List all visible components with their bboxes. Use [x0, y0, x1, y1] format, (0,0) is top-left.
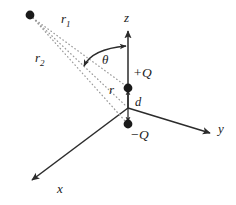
r-label: r [109, 83, 114, 96]
axis-group [32, 31, 210, 180]
diagram-canvas [0, 0, 236, 205]
r1-ray [33, 18, 126, 86]
y-axis-label: y [218, 122, 224, 135]
x-axis-label: x [57, 182, 63, 195]
r2-subscript: 2 [40, 58, 45, 68]
negative-charge-label: −Q [130, 128, 149, 142]
distance-ray-group [33, 18, 126, 122]
x-axis-line [32, 108, 128, 180]
dipole-diagram: z y x r1 r2 r θ +Q −Q d [0, 0, 236, 205]
r2-ray [33, 18, 126, 122]
z-axis-label: z [124, 11, 129, 24]
field-point-dot [26, 11, 35, 20]
charge-dot-group [26, 11, 133, 129]
r1-label: r1 [61, 12, 71, 29]
positive-charge-label: +Q [133, 66, 152, 80]
r2-label: r2 [35, 51, 45, 68]
separation-label: d [135, 96, 141, 109]
theta-label: θ [102, 53, 108, 66]
positive-charge-dot [124, 84, 133, 93]
r1-subscript: 1 [66, 19, 71, 29]
